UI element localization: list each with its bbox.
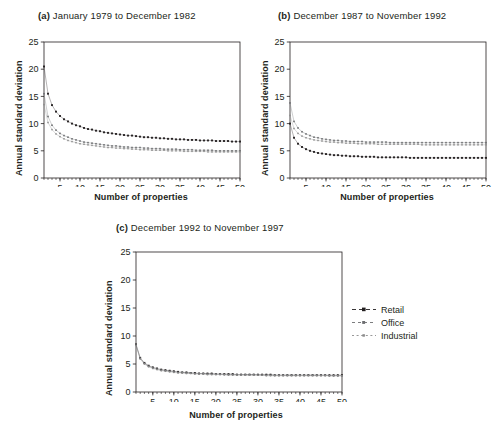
panel-a-x-axis-label: Number of properties — [43, 192, 239, 202]
panel-b: (b) December 1987 to November 1992 Annua… — [246, 0, 493, 215]
svg-text:15: 15 — [341, 183, 351, 187]
svg-text:20: 20 — [361, 183, 371, 187]
svg-text:5: 5 — [303, 183, 308, 187]
panel-c-title-text: December 1992 to November 1997 — [131, 222, 284, 233]
panel-c-plot: 05101520255101520253035404550 — [108, 242, 348, 402]
svg-text:15: 15 — [274, 92, 284, 102]
legend-item-industrial: Industrial — [352, 329, 418, 342]
svg-text:25: 25 — [381, 183, 391, 187]
svg-text:10: 10 — [28, 119, 38, 129]
svg-text:45: 45 — [215, 183, 225, 187]
svg-text:20: 20 — [28, 64, 38, 74]
panel-b-plot: 05101520255101520253035404550 — [264, 32, 492, 187]
svg-text:20: 20 — [211, 397, 221, 402]
svg-text:40: 40 — [195, 183, 205, 187]
svg-text:20: 20 — [274, 64, 284, 74]
panel-a-title-text: January 1979 to December 1982 — [53, 10, 196, 21]
legend-line-industrial-icon — [352, 330, 376, 341]
svg-text:35: 35 — [274, 397, 284, 402]
panel-b-title: (b) December 1987 to November 1992 — [278, 10, 446, 21]
panel-c-tag: (c) — [116, 222, 128, 233]
svg-text:25: 25 — [135, 183, 145, 187]
svg-text:40: 40 — [295, 397, 305, 402]
svg-text:30: 30 — [253, 397, 263, 402]
svg-text:30: 30 — [155, 183, 165, 187]
legend-line-office-icon — [352, 317, 376, 328]
svg-text:30: 30 — [401, 183, 411, 187]
svg-text:25: 25 — [232, 397, 242, 402]
legend-label-industrial: Industrial — [381, 331, 418, 341]
figure-page: { "figure": { "y_axis_label": "Annual st… — [0, 0, 493, 439]
svg-text:40: 40 — [441, 183, 451, 187]
svg-text:25: 25 — [274, 37, 284, 47]
panel-c-x-axis-label: Number of properties — [133, 410, 339, 420]
panel-a: (a) January 1979 to December 1982 Annual… — [0, 0, 247, 215]
svg-text:10: 10 — [274, 119, 284, 129]
legend-label-office: Office — [381, 318, 404, 328]
svg-text:10: 10 — [169, 397, 179, 402]
panel-a-plot: 05101520255101520253035404550 — [18, 32, 246, 187]
svg-text:5: 5 — [125, 359, 130, 369]
svg-text:0: 0 — [279, 173, 284, 183]
svg-text:25: 25 — [120, 247, 130, 257]
panel-a-tag: (a) — [38, 10, 50, 21]
svg-text:5: 5 — [150, 397, 155, 402]
panel-b-title-text: December 1987 to November 1992 — [293, 10, 446, 21]
svg-text:20: 20 — [115, 183, 125, 187]
panel-b-x-axis-label: Number of properties — [289, 192, 485, 202]
svg-text:15: 15 — [28, 92, 38, 102]
svg-text:20: 20 — [120, 275, 130, 285]
legend-item-retail: Retail — [352, 303, 418, 316]
svg-text:25: 25 — [28, 37, 38, 47]
svg-text:10: 10 — [75, 183, 85, 187]
svg-text:15: 15 — [95, 183, 105, 187]
legend-item-office: Office — [352, 316, 418, 329]
legend-line-retail-icon — [352, 304, 376, 315]
svg-text:45: 45 — [316, 397, 326, 402]
svg-text:0: 0 — [33, 173, 38, 183]
chart-legend: Retail Office Industrial — [352, 303, 418, 342]
svg-text:50: 50 — [337, 397, 347, 402]
svg-text:35: 35 — [175, 183, 185, 187]
svg-text:50: 50 — [235, 183, 245, 187]
svg-text:10: 10 — [321, 183, 331, 187]
svg-text:5: 5 — [57, 183, 62, 187]
svg-text:5: 5 — [33, 146, 38, 156]
svg-text:10: 10 — [120, 331, 130, 341]
panel-b-tag: (b) — [278, 10, 291, 21]
svg-text:15: 15 — [190, 397, 200, 402]
legend-label-retail: Retail — [381, 305, 404, 315]
panel-a-title: (a) January 1979 to December 1982 — [38, 10, 196, 21]
panel-c-title: (c) December 1992 to November 1997 — [116, 222, 284, 233]
svg-text:0: 0 — [125, 387, 130, 397]
svg-text:50: 50 — [481, 183, 491, 187]
svg-text:35: 35 — [421, 183, 431, 187]
panel-c: (c) December 1992 to November 1997 Annua… — [94, 215, 354, 439]
svg-text:15: 15 — [120, 303, 130, 313]
svg-text:5: 5 — [279, 146, 284, 156]
svg-text:45: 45 — [461, 183, 471, 187]
